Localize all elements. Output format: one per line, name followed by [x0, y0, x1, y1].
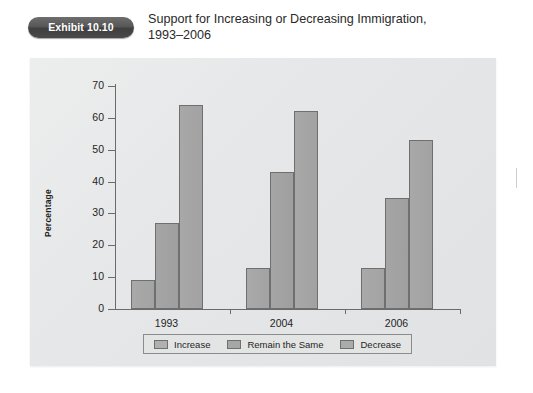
exhibit-title: Support for Increasing or Decreasing Imm…: [148, 12, 508, 43]
x-axis-line: [115, 309, 460, 310]
bar-2004-decrease: [294, 111, 318, 309]
y-axis-tick-label: 0: [58, 302, 104, 314]
x-axis-tick: [460, 309, 461, 314]
y-axis-tick-label: 50: [58, 143, 104, 155]
bar-1993-decrease: [179, 105, 203, 309]
bar-chart-plot: Percentage 010203040506070 199320042006: [30, 58, 496, 366]
chart-legend: IncreaseRemain the SameDecrease: [143, 334, 412, 354]
legend-swatch-icon: [340, 340, 354, 349]
legend-item-decrease: Decrease: [340, 339, 401, 350]
y-axis-tick-label: 60: [58, 111, 104, 123]
legend-item-remain-the-same: Remain the Same: [227, 339, 323, 350]
page-margin-mark: [516, 168, 517, 188]
legend-label: Remain the Same: [247, 339, 323, 350]
bar-2006-remain-the-same: [385, 198, 409, 310]
exhibit-badge: Exhibit 10.10: [28, 17, 134, 38]
exhibit-header: Exhibit 10.10 Support for Increasing or …: [0, 0, 533, 58]
y-axis-tick: [108, 245, 116, 246]
y-axis-tick: [108, 118, 116, 119]
legend-label: Decrease: [360, 339, 401, 350]
y-axis-tick: [108, 309, 116, 310]
y-axis-title: Percentage: [43, 173, 53, 253]
bar-1993-increase: [131, 280, 155, 309]
bar-1993-remain-the-same: [155, 223, 179, 309]
y-axis-tick-label: 40: [58, 175, 104, 187]
bar-2006-increase: [361, 268, 385, 309]
y-axis-tick-label: 20: [58, 238, 104, 250]
x-axis-tick: [345, 309, 346, 314]
y-axis-tick-label: 70: [58, 79, 104, 91]
x-axis-group-label-2006: 2006: [352, 317, 442, 329]
x-axis-group-label-1993: 1993: [122, 317, 212, 329]
bar-2004-remain-the-same: [270, 172, 294, 309]
y-axis-tick: [108, 277, 116, 278]
y-axis-tick: [108, 150, 116, 151]
y-axis-tick-label: 10: [58, 270, 104, 282]
bar-2004-increase: [246, 268, 270, 309]
y-axis-tick: [108, 86, 116, 87]
x-axis-group-label-2004: 2004: [237, 317, 327, 329]
chart-card: Percentage 010203040506070 199320042006 …: [30, 58, 496, 366]
legend-item-increase: Increase: [154, 339, 210, 350]
y-axis-tick: [108, 182, 116, 183]
x-axis-tick: [230, 309, 231, 314]
legend-label: Increase: [174, 339, 210, 350]
bar-2006-decrease: [409, 140, 433, 309]
legend-swatch-icon: [154, 340, 168, 349]
legend-swatch-icon: [227, 340, 241, 349]
y-axis-tick: [108, 213, 116, 214]
y-axis-tick-label: 30: [58, 206, 104, 218]
